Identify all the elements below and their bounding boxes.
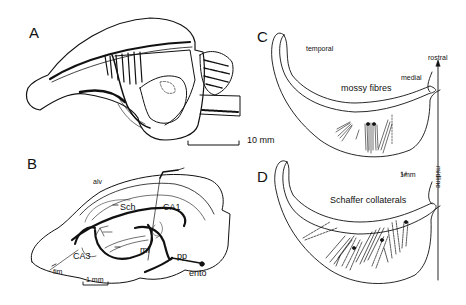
- panel-d-fibre-traces: [303, 220, 408, 270]
- label-fim: fim: [53, 268, 62, 275]
- label-pp: pp: [177, 252, 187, 261]
- figure-drawings: [0, 0, 466, 305]
- panel-c-fibre-traces: [336, 115, 392, 153]
- panel-c-title: mossy fibres: [341, 84, 392, 93]
- panel-a-brain-illustration: [27, 18, 241, 140]
- figure: A B C D 10 mm alv Sch CA1 CA3 fim mf pp …: [0, 0, 466, 305]
- panel-d-hippocampus-outline: [275, 161, 440, 284]
- panel-label-d: D: [257, 169, 268, 184]
- label-midline: midline: [435, 166, 442, 188]
- label-rostral: rostral: [428, 54, 447, 61]
- label-medial: medial: [401, 74, 422, 81]
- panel-label-c: C: [257, 29, 268, 44]
- panel-a-scale-label: 10 mm: [247, 136, 275, 145]
- label-temporal: temporal: [306, 45, 333, 52]
- label-ento: ento: [189, 269, 207, 278]
- panel-label-b: B: [27, 156, 37, 171]
- panel-label-a: A: [29, 25, 39, 40]
- label-ca1: CA1: [163, 203, 181, 212]
- label-alv: alv: [93, 178, 102, 185]
- panel-c-hippocampus-outline: [272, 33, 440, 157]
- panel-a-scale-bar: [188, 141, 239, 145]
- label-sch: Sch: [120, 203, 136, 212]
- panel-d-title: Schaffer collaterals: [330, 196, 406, 205]
- panel-d-scale-label: 1mm: [400, 171, 416, 178]
- panel-b-scale-label: 1 mm: [86, 276, 104, 283]
- panel-b-hippocampus-illustration: [31, 168, 230, 283]
- label-ca3: CA3: [73, 252, 91, 261]
- label-mf: mf: [140, 246, 150, 255]
